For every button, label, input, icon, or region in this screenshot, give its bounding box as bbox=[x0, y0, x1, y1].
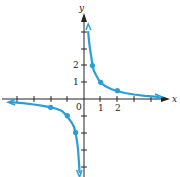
y-axis-label: y bbox=[78, 3, 85, 13]
y-axis-arrow-icon bbox=[81, 13, 87, 22]
curve-left-branch bbox=[10, 102, 80, 172]
curve-arrow-up-icon bbox=[86, 24, 91, 30]
point-neg0.5-neg2 bbox=[73, 130, 78, 135]
curve-right-branch bbox=[88, 32, 158, 97]
y-tick-label-1: 1 bbox=[73, 77, 79, 87]
y-tick-label-2: 2 bbox=[73, 60, 79, 70]
x-axis-label: x bbox=[172, 94, 177, 104]
x-tick-label-2: 2 bbox=[115, 103, 121, 113]
point-0.5-2 bbox=[90, 63, 95, 68]
point-neg1-neg1 bbox=[65, 113, 70, 118]
x-tick-label-1: 1 bbox=[98, 103, 104, 113]
point-neg2-neg0.5 bbox=[48, 105, 53, 110]
point-2-0.5 bbox=[115, 88, 120, 93]
graph: y x 0 1 2 1 2 bbox=[0, 0, 180, 177]
point-1-1 bbox=[98, 80, 103, 85]
origin-label: 0 bbox=[76, 102, 82, 112]
